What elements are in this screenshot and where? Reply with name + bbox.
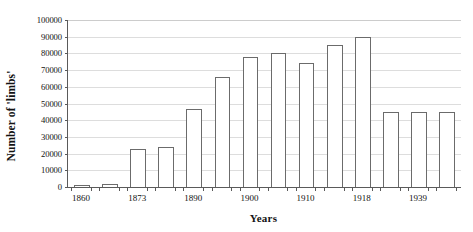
- x-tick-mark: [203, 188, 204, 191]
- x-tick-mark: [372, 188, 373, 191]
- x-tick-label: 1900: [240, 194, 258, 203]
- bar: [355, 37, 371, 187]
- x-tick-mark: [296, 188, 297, 191]
- x-tick-mark: [352, 188, 353, 191]
- x-tick-mark: [428, 188, 429, 191]
- bars-layer: [68, 20, 461, 187]
- x-tick-mark: [71, 188, 72, 191]
- x-tick-mark: [436, 188, 437, 191]
- y-tick-mark: [65, 137, 68, 138]
- y-tick-mark: [65, 87, 68, 88]
- y-tick-mark: [65, 37, 68, 38]
- y-tick-label: 30000: [41, 133, 62, 142]
- bar: [215, 77, 231, 187]
- x-tick-mark: [400, 188, 401, 191]
- x-tick-mark: [91, 188, 92, 191]
- y-tick-mark: [65, 53, 68, 54]
- y-tick-mark: [65, 154, 68, 155]
- y-tick-label: 100000: [37, 16, 62, 25]
- x-tick-mark: [324, 188, 325, 191]
- y-tick-label: 0: [58, 183, 62, 192]
- x-tick-mark: [212, 188, 213, 191]
- bar: [74, 185, 90, 187]
- x-tick-mark: [99, 188, 100, 191]
- x-tick-mark: [240, 188, 241, 191]
- bar: [383, 112, 399, 187]
- bar: [271, 53, 287, 187]
- x-tick-mark: [380, 188, 381, 191]
- bar: [299, 63, 315, 187]
- y-axis-tick-labels: 0100002000030000400005000060000700008000…: [20, 14, 66, 188]
- y-axis-title: Number of 'limbs': [0, 0, 22, 232]
- y-tick-label: 50000: [41, 99, 62, 108]
- y-tick-label: 10000: [41, 166, 62, 175]
- y-tick-label: 70000: [41, 66, 62, 75]
- x-tick-mark: [315, 188, 316, 191]
- bar: [327, 45, 343, 187]
- x-tick-mark: [408, 188, 409, 191]
- bar-chart: Number of 'limbs' 0100002000030000400005…: [0, 0, 473, 232]
- bar: [411, 112, 427, 187]
- x-tick-mark: [127, 188, 128, 191]
- x-tick-label: 1918: [353, 194, 371, 203]
- bar: [186, 109, 202, 187]
- x-tick-label: 1860: [72, 194, 90, 203]
- x-tick-mark: [456, 188, 457, 191]
- x-tick-label: 1890: [184, 194, 202, 203]
- y-tick-mark: [65, 20, 68, 21]
- x-tick-mark: [175, 188, 176, 191]
- x-tick-mark: [259, 188, 260, 191]
- bar: [102, 184, 118, 187]
- x-axis-tick-labels: 1860187318901900191019181939: [67, 194, 460, 210]
- bar: [158, 147, 174, 187]
- x-tick-mark: [147, 188, 148, 191]
- y-tick-label: 90000: [41, 32, 62, 41]
- y-tick-mark: [65, 104, 68, 105]
- y-tick-mark: [65, 70, 68, 71]
- x-tick-mark: [155, 188, 156, 191]
- x-tick-mark: [344, 188, 345, 191]
- y-tick-label: 60000: [41, 83, 62, 92]
- y-tick-mark: [65, 120, 68, 121]
- x-tick-label: 1910: [297, 194, 315, 203]
- x-tick-mark: [287, 188, 288, 191]
- bar: [243, 57, 259, 187]
- y-tick-mark: [65, 170, 68, 171]
- x-tick-mark: [231, 188, 232, 191]
- bar: [130, 149, 146, 187]
- y-tick-label: 80000: [41, 49, 62, 58]
- x-tick-mark: [268, 188, 269, 191]
- plot-area: [67, 20, 461, 188]
- x-tick-mark: [183, 188, 184, 191]
- x-tick-label: 1939: [409, 194, 427, 203]
- bar: [439, 112, 455, 187]
- x-tick-mark: [119, 188, 120, 191]
- y-tick-label: 40000: [41, 116, 62, 125]
- y-tick-label: 20000: [41, 149, 62, 158]
- x-axis-title: Years: [67, 212, 460, 224]
- x-tick-label: 1873: [128, 194, 146, 203]
